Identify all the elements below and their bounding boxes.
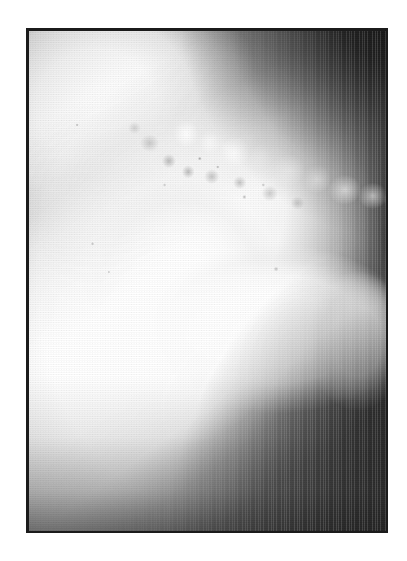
bone-upper-left-mass: [29, 31, 386, 531]
halftone-dot-texture: [29, 31, 386, 531]
bone-central-confluence: [29, 31, 386, 531]
bone-right-body: [29, 31, 386, 531]
radiograph-image: [29, 31, 386, 531]
radiograph-panel: [26, 28, 388, 533]
dark-corner-upper-right: [29, 31, 386, 531]
tonal-base-gradient: [29, 31, 386, 531]
vignette-overlay: [29, 31, 386, 531]
figure-root: [0, 0, 407, 561]
scan-grain-texture: [29, 31, 386, 531]
bone-lower-diagonal-band: [29, 31, 386, 531]
soft-tissue-left-shadow: [29, 31, 386, 531]
dark-band-bottom: [29, 31, 386, 531]
calcification-speckle-band: [29, 31, 386, 531]
figure-caption: [26, 537, 388, 557]
dark-corner-lower-right: [29, 31, 386, 531]
line-screen-texture: [29, 31, 386, 531]
calcific-fleck-layer: [29, 31, 386, 531]
trabecular-blotch-left: [29, 31, 386, 531]
bone-right-terminus: [29, 31, 386, 531]
bone-shaft-upper-limb: [29, 31, 386, 531]
soft-tissue-top-wedge: [29, 31, 386, 531]
